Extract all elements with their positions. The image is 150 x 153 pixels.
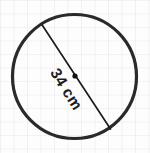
circle-center-point — [72, 73, 77, 78]
figure-drawing: 34 cm — [0, 0, 150, 153]
diameter-label: 34 cm — [47, 65, 86, 113]
geometry-figure: 34 cm — [0, 0, 150, 153]
